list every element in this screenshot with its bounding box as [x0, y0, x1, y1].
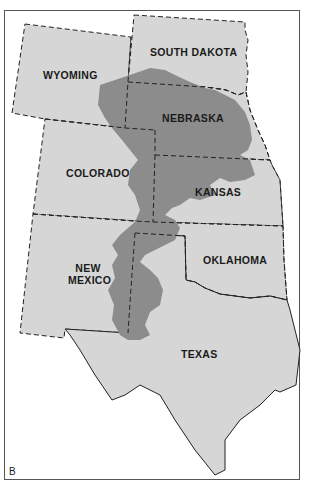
label-texas: TEXAS	[181, 348, 218, 360]
label-south-dakota: SOUTH DAKOTA	[150, 46, 237, 58]
label-new-mexico-line2: MEXICO	[68, 274, 108, 286]
label-colorado: COLORADO	[66, 167, 130, 179]
label-kansas: KANSAS	[195, 186, 241, 198]
label-wyoming: WYOMING	[43, 69, 98, 81]
label-new-mexico-line1: NEW	[68, 262, 108, 274]
label-new-mexico: NEW MEXICO	[68, 262, 108, 286]
panel-label: B	[9, 466, 16, 477]
label-nebraska: NEBRASKA	[162, 112, 224, 124]
label-oklahoma: OKLAHOMA	[203, 254, 267, 266]
